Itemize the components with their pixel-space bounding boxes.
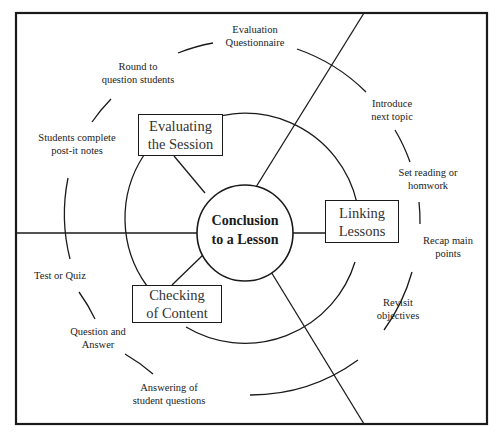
segment-box-evaluating: Evaluating the Session [138,114,223,156]
segment-label-line1: Evaluating [139,117,222,135]
segment-label-line2: of Content [133,304,221,322]
connector-checking [172,254,204,285]
item-line2: student questions [133,394,206,407]
item-line1: Recap main [423,234,473,247]
segment-label-line1: Checking [133,286,221,304]
item-line1: Test or Quiz [34,269,86,282]
item-line2: next topic [371,110,413,123]
item-line1: Introduce [371,97,413,110]
segment-box-checking: Checking of Content [132,285,222,323]
outer-item-evaluation-questionnaire: Evaluation Questionnaire [226,23,285,49]
outer-item-introduce-next-topic: Introduce next topic [371,97,413,123]
item-line2: Answer [70,338,126,351]
outer-item-round-to-question: Round to question students [102,60,175,86]
item-line2: post-it notes [38,144,115,157]
outer-item-set-reading: Set reading or homwork [399,166,458,192]
divider-lower-right [265,262,364,424]
outer-item-answering-student-questions: Answering of student questions [133,381,206,407]
segment-label-line1: Linking [326,204,398,222]
item-line1: Students complete [38,131,115,144]
item-line2: question students [102,73,175,86]
item-line1: Answering of [133,381,206,394]
connector-evaluating [174,156,205,193]
outer-item-recap-main-points: Recap main points [423,234,473,260]
center-topic-line2: to a Lesson [212,230,279,249]
outer-item-revisit-objectives: Revisit objectives [377,296,420,322]
item-line1: Set reading or [399,166,458,179]
item-line1: Evaluation [226,23,285,36]
outer-item-question-and-answer: Question and Answer [70,325,126,351]
segment-label-line2: Lessons [326,222,398,240]
center-topic-line1: Conclusion [212,211,279,230]
item-line1: Round to [102,60,175,73]
item-line2: objectives [377,309,420,322]
segment-box-linking: Linking Lessons [325,200,399,243]
outer-item-test-or-quiz: Test or Quiz [34,269,86,282]
outer-item-post-it-notes: Students complete post-it notes [38,131,115,157]
center-topic: Conclusion to a Lesson [212,211,279,249]
item-line2: points [423,247,473,260]
segment-label-line2: the Session [139,135,222,153]
item-line1: Question and [70,325,126,338]
item-line2: homwork [399,179,458,192]
item-line2: Questionnaire [226,36,285,49]
item-line1: Revisit [377,296,420,309]
